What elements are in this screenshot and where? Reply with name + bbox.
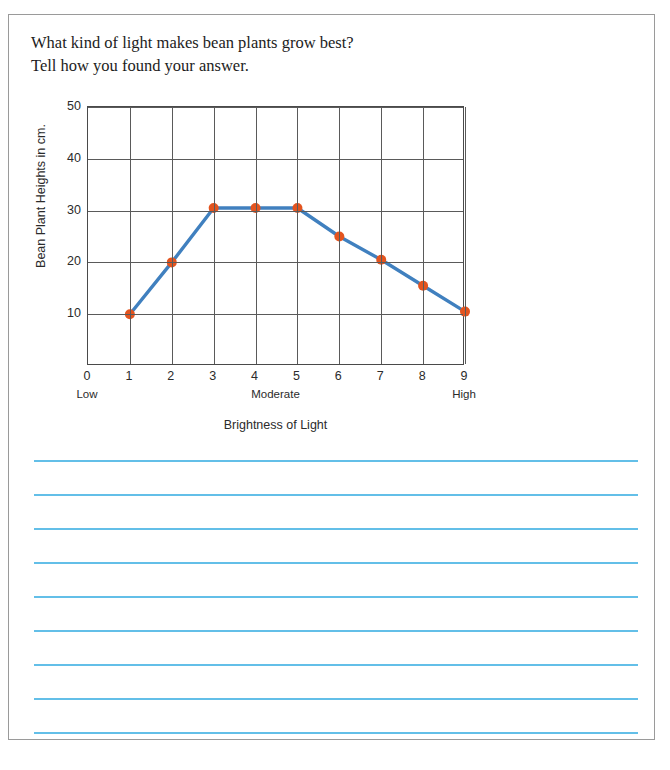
x-axis-tick-labels: 0123456789 — [87, 369, 464, 385]
x-axis-tick-label: 9 — [449, 369, 479, 383]
x-axis-tick-label: 0 — [72, 369, 102, 383]
worksheet-page: What kind of light makes bean plants gro… — [8, 14, 655, 740]
gridline-horizontal — [88, 107, 463, 108]
gridline-horizontal — [88, 211, 463, 212]
gridline-vertical — [297, 107, 298, 364]
answer-line[interactable] — [34, 664, 638, 666]
gridline-vertical — [214, 107, 215, 364]
y-axis-tick-label: 40 — [53, 151, 81, 165]
chart-series-svg — [88, 107, 465, 366]
question-prompt-line-1: What kind of light makes bean plants gro… — [31, 31, 591, 54]
gridline-vertical — [339, 107, 340, 364]
gridline-horizontal — [88, 262, 463, 263]
question-prompt: What kind of light makes bean plants gro… — [31, 31, 591, 77]
x-axis-tick-label: 8 — [407, 369, 437, 383]
gridline-vertical — [423, 107, 424, 364]
y-axis-tick-label: 30 — [53, 203, 81, 217]
x-axis-zone-labels: LowModerateHigh — [87, 388, 464, 404]
answer-line[interactable] — [34, 460, 638, 462]
y-axis-tick-labels: 1020304050 — [49, 106, 81, 365]
question-prompt-line-2: Tell how you found your answer. — [31, 54, 591, 77]
gridline-horizontal — [88, 159, 463, 160]
chart-plot-area — [87, 106, 464, 365]
gridline-horizontal — [88, 314, 463, 315]
line-chart: Bean Plant Heights in cm. 1020304050 012… — [9, 81, 656, 431]
answer-line[interactable] — [34, 732, 638, 734]
answer-line[interactable] — [34, 698, 638, 700]
x-axis-tick-label: 1 — [114, 369, 144, 383]
answer-line[interactable] — [34, 562, 638, 564]
x-axis-tick-label: 2 — [156, 369, 186, 383]
gridline-vertical — [130, 107, 131, 364]
x-axis-zone-label: High — [419, 388, 509, 400]
answer-writing-lines — [9, 435, 656, 741]
answer-line[interactable] — [34, 596, 638, 598]
x-axis-tick-label: 6 — [323, 369, 353, 383]
y-axis-tick-label: 10 — [53, 306, 81, 320]
x-axis-tick-label: 5 — [281, 369, 311, 383]
y-axis-title: Bean Plant Heights in cm. — [34, 96, 48, 296]
y-axis-tick-label: 20 — [53, 254, 81, 268]
gridline-vertical — [172, 107, 173, 364]
y-axis-tick-label: 50 — [53, 99, 81, 113]
gridline-vertical — [256, 107, 257, 364]
answer-line[interactable] — [34, 528, 638, 530]
x-axis-zone-label: Moderate — [231, 388, 321, 400]
answer-line[interactable] — [34, 494, 638, 496]
x-axis-title: Brightness of Light — [87, 418, 464, 432]
x-axis-tick-label: 3 — [198, 369, 228, 383]
gridline-vertical — [465, 107, 466, 364]
x-axis-tick-label: 4 — [240, 369, 270, 383]
x-axis-zone-label: Low — [42, 388, 132, 400]
answer-line[interactable] — [34, 630, 638, 632]
x-axis-tick-label: 7 — [365, 369, 395, 383]
gridline-vertical — [381, 107, 382, 364]
